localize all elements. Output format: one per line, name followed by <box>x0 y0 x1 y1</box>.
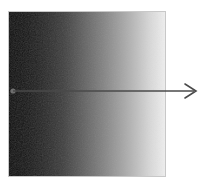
figure-root <box>0 0 203 185</box>
gradient-panel-noise-overlay <box>8 11 166 177</box>
gradient-panel <box>8 11 166 177</box>
gradient-direction-figure <box>0 0 203 185</box>
